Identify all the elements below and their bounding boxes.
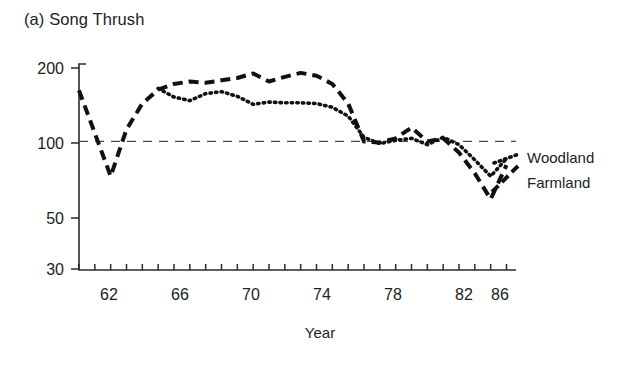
legend-label-woodland: Woodland (527, 149, 594, 166)
x-tick-label-66: 66 (171, 286, 189, 303)
y-tick-label-200: 200 (37, 60, 64, 77)
x-tick-label-82: 82 (455, 286, 473, 303)
y-tick-label-100: 100 (37, 135, 64, 152)
x-tick-label-86: 86 (491, 286, 509, 303)
legend-swatch-woodland (494, 154, 519, 163)
figure-panel: (a) Song Thrush 200 100 50 30 62 66 70 7… (0, 0, 636, 378)
y-axis-ticks (71, 68, 79, 269)
x-axis-ticks (79, 264, 507, 270)
y-tick-label-50: 50 (46, 210, 64, 227)
x-tick-label-70: 70 (242, 286, 260, 303)
y-tick-label-30: 30 (46, 261, 64, 278)
legend-label-farmland: Farmland (527, 174, 590, 191)
axis-spine (79, 64, 516, 270)
x-tick-label-74: 74 (313, 286, 331, 303)
series-line-woodland (158, 88, 506, 176)
x-tick-label-78: 78 (384, 286, 402, 303)
x-axis-title: Year (305, 324, 335, 341)
chart-canvas: 200 100 50 30 62 66 70 74 78 82 86 Year … (0, 0, 636, 378)
x-tick-label-62: 62 (100, 286, 118, 303)
